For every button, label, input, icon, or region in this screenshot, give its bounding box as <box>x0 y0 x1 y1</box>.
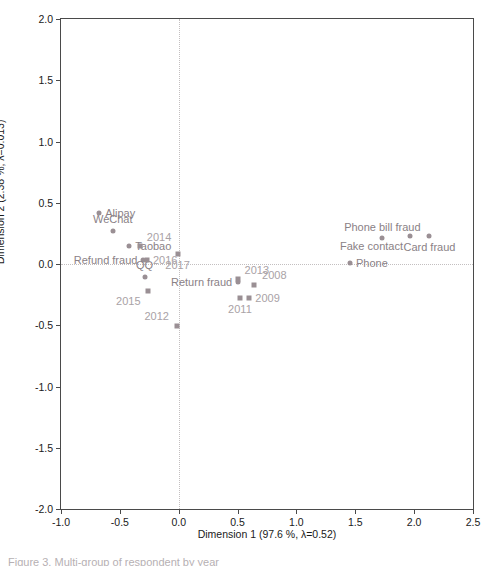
plot-area: 2.01.51.00.50.0-0.5-1.0-1.5-2.0-1.0-0.50… <box>60 18 474 510</box>
x-axis-tick <box>355 509 356 514</box>
x-axis-tick-label: -0.5 <box>111 516 129 528</box>
y-axis-tick <box>56 142 61 143</box>
x-axis-tick-label: -1.0 <box>52 516 70 528</box>
data-point-year <box>247 295 252 300</box>
point-label-category: Return fraud <box>171 277 232 288</box>
point-label-year: 2011 <box>228 303 252 314</box>
data-point-category <box>427 234 432 239</box>
y-axis-tick-label: 1.0 <box>38 136 53 148</box>
x-axis-tick <box>120 509 121 514</box>
x-axis-tick-label: 0.5 <box>230 516 245 528</box>
point-label-year: 2013 <box>245 264 269 275</box>
point-label-year: 2009 <box>255 292 279 303</box>
point-label-year: 2017 <box>165 259 189 270</box>
x-axis-tick <box>296 509 297 514</box>
x-axis-tick <box>238 509 239 514</box>
data-point-category <box>110 228 115 233</box>
y-axis-tick-label: -2.0 <box>35 503 53 515</box>
x-axis-tick <box>473 509 474 514</box>
x-axis-title: Dimension 1 (97.6 %, λ=0.52) <box>60 528 474 540</box>
y-axis-tick-label: -1.5 <box>35 442 53 454</box>
data-point-category <box>408 234 413 239</box>
point-label-category: Phone <box>356 257 388 268</box>
y-axis-tick <box>56 448 61 449</box>
y-axis-tick-label: -1.0 <box>35 381 53 393</box>
data-point-category <box>127 243 132 248</box>
point-label-year: 2014 <box>147 231 171 242</box>
y-axis-tick <box>56 325 61 326</box>
y-axis-tick <box>56 203 61 204</box>
data-point-year <box>235 276 240 281</box>
point-label-category: Card fraud <box>403 242 455 253</box>
x-axis-tick <box>414 509 415 514</box>
data-point-category <box>347 260 352 265</box>
point-label-category: Phone bill fraud <box>344 221 420 232</box>
data-point-year <box>175 251 180 256</box>
y-axis-title: Dimension 2 (2.38 %, λ=0.013) <box>0 120 6 264</box>
x-axis-tick <box>179 509 180 514</box>
data-point-year <box>145 288 150 293</box>
y-axis-tick <box>56 19 61 20</box>
correspondence-analysis-figure: 2.01.51.00.50.0-0.5-1.0-1.5-2.0-1.0-0.50… <box>0 0 496 566</box>
y-axis-tick-label: 2.0 <box>38 13 53 25</box>
y-axis-tick <box>56 80 61 81</box>
x-axis-tick-label: 0.0 <box>171 516 186 528</box>
data-point-year <box>252 282 257 287</box>
x-axis-tick-label: 2.0 <box>407 516 422 528</box>
point-label-year: 2015 <box>116 295 140 306</box>
data-point-category <box>142 274 147 279</box>
y-axis-tick <box>56 387 61 388</box>
point-label-category: Fake contact <box>340 241 403 252</box>
data-point-year <box>144 258 149 263</box>
data-point-year <box>237 295 242 300</box>
point-label-year: 2012 <box>144 310 168 321</box>
y-axis-tick-label: 0.0 <box>38 258 53 270</box>
point-label-category: WeChat <box>93 213 133 224</box>
x-axis-tick-label: 1.0 <box>289 516 304 528</box>
data-point-year <box>174 323 179 328</box>
y-axis-tick <box>56 264 61 265</box>
y-axis-tick-label: -0.5 <box>35 319 53 331</box>
figure-caption: Figure 3. Multi-group of respondent by y… <box>8 556 308 566</box>
x-axis-tick-label: 2.5 <box>466 516 481 528</box>
point-label-category: Refund fraud <box>74 255 138 266</box>
y-axis-tick-label: 1.5 <box>38 74 53 86</box>
y-axis-tick-label: 0.5 <box>38 197 53 209</box>
x-axis-tick <box>61 509 62 514</box>
x-axis-tick-label: 1.5 <box>348 516 363 528</box>
data-point-year <box>137 243 142 248</box>
